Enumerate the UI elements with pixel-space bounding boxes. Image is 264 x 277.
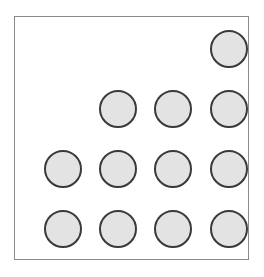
- circle: [154, 150, 192, 188]
- circle: [210, 30, 248, 68]
- diagram-frame: [14, 16, 249, 260]
- circle: [210, 150, 248, 188]
- circle: [99, 210, 137, 248]
- circle: [44, 150, 82, 188]
- circle: [210, 210, 248, 248]
- circle: [210, 90, 248, 128]
- circle: [99, 90, 137, 128]
- circle: [99, 150, 137, 188]
- circle: [44, 210, 82, 248]
- circle: [154, 90, 192, 128]
- circle: [154, 210, 192, 248]
